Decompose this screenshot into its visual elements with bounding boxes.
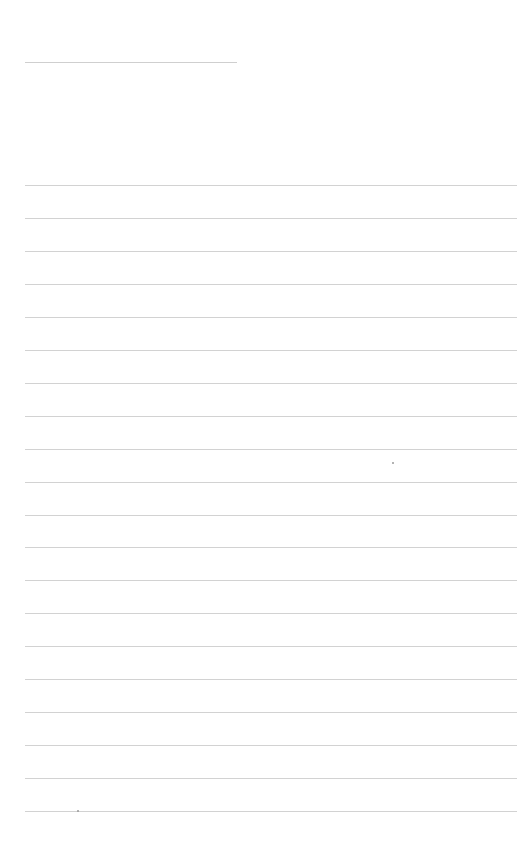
paper-speck (77, 810, 79, 812)
ruled-line (25, 580, 517, 581)
ruled-line (25, 646, 517, 647)
ruled-line (25, 416, 517, 417)
ruled-line (25, 284, 517, 285)
header-rule (25, 62, 237, 63)
ruled-line (25, 350, 517, 351)
ruled-line (25, 613, 517, 614)
ruled-line (25, 778, 517, 779)
ruled-line (25, 185, 517, 186)
ruled-line (25, 449, 517, 450)
ruled-line (25, 745, 517, 746)
ruled-line (25, 712, 517, 713)
ruled-line (25, 679, 517, 680)
ruled-line (25, 317, 517, 318)
ruled-line (25, 515, 517, 516)
ruled-line (25, 218, 517, 219)
ruled-line (25, 482, 517, 483)
ruled-line (25, 547, 517, 548)
ruled-line (25, 383, 517, 384)
ruled-line (25, 811, 517, 812)
lined-paper-page (0, 0, 522, 864)
ruled-line (25, 251, 517, 252)
paper-speck (392, 462, 394, 464)
